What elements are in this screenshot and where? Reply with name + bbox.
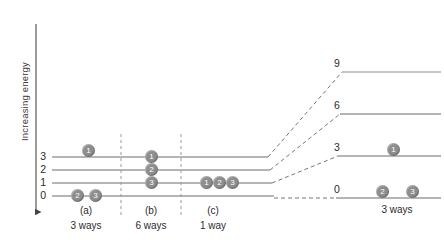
particle-ball: 2 [145,163,158,176]
particle-ball: 1 [387,143,400,156]
left-level-label-2: 2 [32,164,46,175]
right-level-label-6: 6 [330,100,344,111]
left-level-label-3: 3 [32,151,46,162]
right-panel-ways: 3 ways [362,204,432,215]
particle-ball: 2 [71,189,84,202]
y-axis-title: Increasing energy [19,32,30,172]
particle-ball: 3 [406,185,419,198]
left-level-label-1: 1 [32,177,46,188]
right-level-label-9: 9 [330,58,344,69]
particle-ball: 3 [145,176,158,189]
column-ways-b: 6 ways [116,220,186,231]
column-ways-a: 3 ways [51,220,121,231]
right-level-label-0: 0 [330,184,344,195]
particle-ball: 3 [226,176,239,189]
left-level-label-0: 0 [32,190,46,201]
particle-ball: 2 [213,176,226,189]
right-level-label-3: 3 [330,142,344,153]
column-name-a: (a) [56,205,116,216]
particle-ball: 3 [89,189,102,202]
particle-ball: 1 [200,176,213,189]
column-ways-c: 1 way [178,220,248,231]
column-name-c: (c) [183,205,243,216]
energy-level-diagram: Increasing energy 3 2 1 0 1 2 3 1 2 3 1 … [0,0,444,240]
column-name-b: (b) [121,205,181,216]
particle-ball: 1 [145,150,158,163]
particle-ball: 1 [82,144,95,157]
particle-ball: 2 [376,185,389,198]
